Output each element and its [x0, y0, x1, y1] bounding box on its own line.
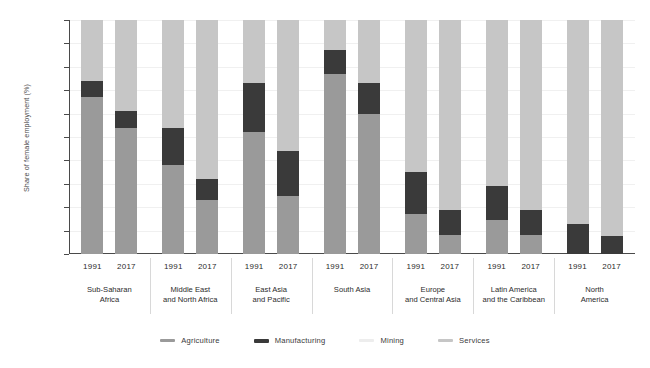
bar-segment-manufacturing[interactable] [115, 111, 137, 127]
bar-segment-manufacturing[interactable] [405, 172, 427, 214]
y-tick [64, 43, 69, 44]
y-tick [64, 137, 69, 138]
x-group-label: NorthAmerica [540, 285, 650, 305]
x-year-label: 2017 [592, 262, 632, 271]
bar-segment-agriculture[interactable] [277, 196, 299, 255]
x-axis-line [69, 253, 635, 254]
bar-segment-manufacturing[interactable] [567, 224, 589, 254]
bar-segment-agriculture[interactable] [324, 74, 346, 254]
y-tick [64, 254, 69, 255]
bar-segment-services[interactable] [243, 20, 265, 83]
bar-segment-services[interactable] [486, 20, 508, 186]
legend-item[interactable]: Manufacturing [254, 336, 326, 345]
legend-label: Agriculture [181, 336, 220, 345]
gridline [70, 207, 635, 208]
y-tick [64, 184, 69, 185]
stacked-bar[interactable] [196, 20, 218, 254]
gridline [70, 114, 635, 115]
x-year-label: 2017 [511, 262, 551, 271]
legend-item[interactable]: Agriculture [160, 336, 220, 345]
gridline [70, 20, 635, 21]
stacked-bar[interactable] [486, 20, 508, 254]
bar-segment-agriculture[interactable] [115, 128, 137, 254]
y-tick [64, 207, 69, 208]
stacked-bar[interactable] [358, 20, 380, 254]
stacked-bar[interactable] [277, 20, 299, 254]
bar-segment-services[interactable] [601, 20, 623, 236]
bar-segment-manufacturing[interactable] [601, 236, 623, 254]
stacked-bar[interactable] [115, 20, 137, 254]
bar-segment-agriculture[interactable] [196, 200, 218, 254]
stacked-bar[interactable] [162, 20, 184, 254]
bar-segment-manufacturing[interactable] [358, 83, 380, 113]
legend-swatch-manufacturing [254, 339, 269, 343]
y-tick [64, 114, 69, 115]
x-year-label: 2017 [187, 262, 227, 271]
legend-label: Services [459, 336, 490, 345]
bar-segment-agriculture[interactable] [81, 97, 103, 254]
stacked-bar[interactable] [567, 20, 589, 254]
plot-area [69, 20, 635, 254]
stacked-bar[interactable] [405, 20, 427, 254]
bar-segment-manufacturing[interactable] [520, 210, 542, 236]
legend-swatch-agriculture [160, 339, 175, 342]
y-axis-title: Share of female employment (%) [22, 84, 31, 192]
bar-segment-services[interactable] [405, 20, 427, 172]
bar-segment-agriculture[interactable] [405, 214, 427, 254]
bar-segment-services[interactable] [439, 20, 461, 210]
legend-item[interactable]: Mining [359, 336, 404, 345]
bar-segment-manufacturing[interactable] [243, 83, 265, 132]
bar-segment-manufacturing[interactable] [81, 81, 103, 97]
chart-legend: AgricultureManufacturingMiningServices [0, 336, 650, 345]
bar-segment-agriculture[interactable] [162, 165, 184, 254]
bar-segment-agriculture[interactable] [358, 114, 380, 254]
x-year-label: 2017 [349, 262, 389, 271]
bar-segment-services[interactable] [324, 20, 346, 50]
bar-segment-services[interactable] [81, 20, 103, 81]
legend-label: Manufacturing [275, 336, 326, 345]
legend-swatch-mining [359, 339, 374, 342]
y-tick [64, 231, 69, 232]
bar-segment-services[interactable] [162, 20, 184, 128]
bar-segment-services[interactable] [196, 20, 218, 179]
bar-segment-services[interactable] [567, 20, 589, 224]
x-year-label: 2017 [430, 262, 470, 271]
bar-segment-manufacturing[interactable] [277, 151, 299, 195]
bar-segment-agriculture[interactable] [520, 235, 542, 254]
y-tick [64, 20, 69, 21]
bar-segment-manufacturing[interactable] [324, 50, 346, 73]
stacked-bar[interactable] [520, 20, 542, 254]
bar-segment-manufacturing[interactable] [486, 186, 508, 220]
gridline [70, 90, 635, 91]
bar-segment-services[interactable] [277, 20, 299, 151]
gridline [70, 137, 635, 138]
legend-swatch-services [438, 339, 453, 342]
bar-segment-agriculture[interactable] [486, 220, 508, 254]
gridline [70, 67, 635, 68]
stacked-bar[interactable] [601, 20, 623, 254]
bar-segment-agriculture[interactable] [243, 132, 265, 254]
y-tick [64, 160, 69, 161]
gridline [70, 184, 635, 185]
legend-item[interactable]: Services [438, 336, 490, 345]
bar-segment-services[interactable] [520, 20, 542, 210]
bar-segment-manufacturing[interactable] [439, 210, 461, 236]
gridline [70, 43, 635, 44]
stacked-bar[interactable] [243, 20, 265, 254]
stacked-bar[interactable] [439, 20, 461, 254]
stacked-bar[interactable] [324, 20, 346, 254]
bar-segment-manufacturing[interactable] [162, 128, 184, 165]
x-year-label: 2017 [106, 262, 146, 271]
legend-label: Mining [380, 336, 404, 345]
bar-segment-manufacturing[interactable] [196, 179, 218, 200]
x-year-label: 2017 [268, 262, 308, 271]
bar-segment-agriculture[interactable] [439, 235, 461, 254]
gridline [70, 231, 635, 232]
bar-segment-services[interactable] [115, 20, 137, 111]
stacked-bar[interactable] [81, 20, 103, 254]
y-tick [64, 67, 69, 68]
y-tick [64, 90, 69, 91]
chart-root: Share of female employment (%) 19912017S… [0, 0, 650, 368]
gridline [70, 160, 635, 161]
bar-segment-services[interactable] [358, 20, 380, 83]
